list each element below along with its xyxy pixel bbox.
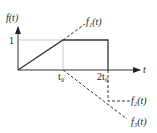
f1-curve (63, 24, 85, 40)
f2-curve (108, 70, 130, 101)
x-tick-2t0: 2t₀ (97, 71, 109, 82)
f3-label: f₃(t) (131, 116, 147, 128)
f3-curve (63, 70, 127, 119)
y-axis-label: f(t) (6, 12, 19, 24)
x-tick-t0: t₀ (58, 71, 65, 82)
y-tick-one: 1 (9, 35, 14, 46)
signal-decomposition-diagram: f(t) 1 t t₀ 2t₀ f₁(t) f₂(t) f₃(t) (0, 0, 157, 133)
f1-label: f₁(t) (86, 16, 102, 28)
f2-label: f₂(t) (131, 95, 147, 107)
x-axis-label: t (143, 64, 146, 75)
